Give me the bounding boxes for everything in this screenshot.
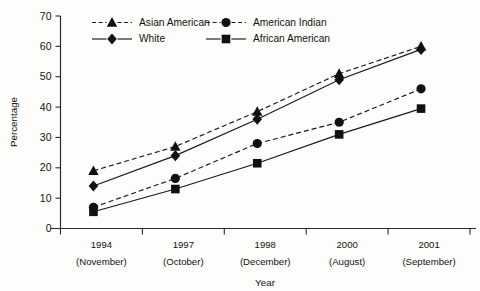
x-label-year: 1997 (173, 239, 194, 250)
legend-entry-african-american[interactable]: African American (206, 33, 330, 44)
marker-diamond (416, 44, 426, 55)
legend-marker (107, 33, 117, 44)
legend-entry-asian-american[interactable]: Asian American (92, 17, 210, 28)
data-point (171, 185, 180, 194)
series-white (89, 44, 426, 192)
y-axis-ticks: 010203040506070 (40, 10, 61, 235)
data-point (335, 118, 344, 127)
x-label-month: (November) (76, 256, 127, 267)
x-label-year: 2001 (418, 239, 439, 250)
legend-marker (107, 17, 117, 27)
y-tick-label: 20 (40, 161, 52, 173)
marker-square (253, 159, 262, 168)
legend-label: White (139, 33, 165, 44)
marker-square (222, 35, 231, 44)
x-label-month: (September) (402, 256, 455, 267)
series-layer (88, 41, 426, 216)
x-label-year: 2000 (336, 239, 357, 250)
y-tick-label: 70 (40, 10, 52, 22)
data-point (417, 104, 426, 113)
legend-entry-white[interactable]: White (92, 33, 165, 44)
x-axis-labels: 1994(November)1997(October)1998(December… (76, 239, 456, 267)
y-tick-label: 30 (40, 131, 52, 143)
data-point (171, 174, 180, 183)
y-tick-label: 40 (40, 101, 52, 113)
y-tick-label: 60 (40, 40, 52, 52)
data-point (171, 150, 181, 161)
y-tick-label: 10 (40, 192, 52, 204)
x-axis-title: Year (255, 277, 276, 288)
data-point (170, 141, 180, 151)
data-point (89, 180, 99, 191)
marker-circle (171, 174, 180, 183)
legend-entry-american-indian[interactable]: American Indian (206, 17, 327, 28)
y-tick-label: 50 (40, 70, 52, 82)
marker-square (417, 104, 426, 113)
data-point (253, 139, 262, 148)
data-point (89, 208, 98, 217)
legend-marker (222, 35, 231, 44)
y-axis-title: Percentage (8, 96, 19, 147)
data-point (335, 130, 344, 139)
marker-diamond (171, 150, 181, 161)
legend-label: Asian American (139, 17, 210, 28)
legend-label: American Indian (253, 17, 327, 28)
marker-square (171, 185, 180, 194)
x-label-year: 1994 (91, 239, 113, 250)
chart-legend: Asian AmericanAmerican IndianWhiteAfrica… (92, 17, 330, 45)
legend-label: African American (253, 33, 330, 44)
data-point (253, 159, 262, 168)
marker-circle (221, 18, 230, 27)
chart-canvas: Percentage 010203040506070 1994(November… (0, 0, 480, 291)
marker-square (89, 208, 98, 217)
x-label-month: (October) (163, 256, 204, 267)
marker-diamond (107, 33, 117, 44)
legend-marker (221, 18, 230, 27)
marker-circle (416, 84, 425, 93)
x-axis-ticks (61, 229, 471, 235)
line-chart: Percentage 010203040506070 1994(November… (0, 0, 480, 291)
x-label-month: (December) (240, 256, 291, 267)
x-label-month: (August) (329, 256, 365, 267)
marker-triangle (170, 141, 180, 151)
marker-circle (335, 118, 344, 127)
x-label-year: 1998 (255, 239, 276, 250)
marker-diamond (89, 180, 99, 191)
data-point (416, 84, 425, 93)
data-point (416, 44, 426, 55)
marker-square (335, 130, 344, 139)
marker-circle (253, 139, 262, 148)
marker-triangle (107, 17, 117, 27)
series-american-indian (89, 84, 426, 212)
